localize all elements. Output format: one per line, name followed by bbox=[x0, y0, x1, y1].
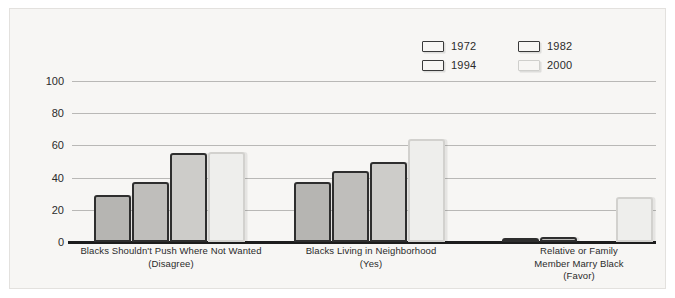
legend-item-1982[interactable]: 1982 bbox=[518, 39, 598, 55]
bar-2000-group-2[interactable] bbox=[408, 139, 445, 242]
legend-item-2000[interactable]: 2000 bbox=[518, 58, 598, 74]
category-label-line: (Disagree) bbox=[56, 258, 286, 271]
category-label-line: (Favor) bbox=[499, 270, 659, 283]
legend-label-1982: 1982 bbox=[547, 41, 572, 52]
y-tick-label-60: 60 bbox=[52, 139, 64, 151]
category-label-line: (Yes) bbox=[276, 258, 466, 271]
category-label-line: Blacks Shouldn't Push Where Not Wanted bbox=[56, 245, 286, 258]
category-label-1: Blacks Shouldn't Push Where Not Wanted(D… bbox=[56, 245, 286, 270]
y-tick-label-80: 80 bbox=[52, 107, 64, 119]
category-label-2: Blacks Living in Neighborhood(Yes) bbox=[276, 245, 466, 270]
y-tick-label-40: 40 bbox=[52, 172, 64, 184]
category-label-line: Blacks Living in Neighborhood bbox=[276, 245, 466, 258]
bar-1972-group-3[interactable] bbox=[502, 238, 539, 242]
chart-panel: 1972 1982 1994 2000 020406080100 Blacks … bbox=[9, 8, 666, 289]
category-label-3: Relative or FamilyMember Marry Black(Fav… bbox=[499, 245, 659, 283]
legend-label-2000: 2000 bbox=[547, 60, 572, 71]
bar-1982-group-2[interactable] bbox=[332, 171, 369, 242]
bar-1994-group-1[interactable] bbox=[170, 153, 207, 242]
legend-swatch-1972 bbox=[422, 41, 444, 52]
legend-swatch-1982 bbox=[518, 41, 540, 52]
plot-area: 020406080100 bbox=[72, 81, 656, 242]
legend-swatch-1994 bbox=[422, 60, 444, 71]
bar-2000-group-3[interactable] bbox=[616, 197, 653, 242]
legend-label-1994: 1994 bbox=[451, 60, 476, 71]
legend-swatch-2000 bbox=[518, 60, 540, 71]
bar-1994-group-2[interactable] bbox=[370, 162, 407, 243]
bars-layer bbox=[72, 81, 656, 242]
bar-1972-group-1[interactable] bbox=[94, 195, 131, 242]
category-label-line: Member Marry Black bbox=[499, 258, 659, 271]
legend-item-1972[interactable]: 1972 bbox=[422, 39, 502, 55]
chart-legend: 1972 1982 1994 2000 bbox=[422, 37, 598, 75]
category-labels: Blacks Shouldn't Push Where Not Wanted(D… bbox=[72, 245, 656, 295]
chart-screenshot: 1972 1982 1994 2000 020406080100 Blacks … bbox=[0, 0, 675, 298]
bar-1982-group-1[interactable] bbox=[132, 182, 169, 242]
bar-1982-group-3[interactable] bbox=[540, 237, 577, 242]
legend-label-1972: 1972 bbox=[451, 41, 476, 52]
y-tick-label-20: 20 bbox=[52, 204, 64, 216]
bar-1972-group-2[interactable] bbox=[294, 182, 331, 242]
bar-2000-group-1[interactable] bbox=[208, 152, 245, 242]
legend-item-1994[interactable]: 1994 bbox=[422, 58, 502, 74]
category-label-line: Relative or Family bbox=[499, 245, 659, 258]
y-tick-label-100: 100 bbox=[46, 75, 64, 87]
